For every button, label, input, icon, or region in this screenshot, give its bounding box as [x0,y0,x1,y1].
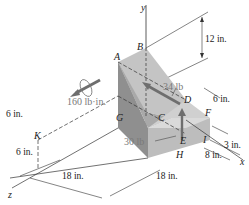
force-34-label: 34 lb [163,82,183,92]
dim-6in-DF: 6 in. [213,95,230,105]
point-D: D [184,95,191,105]
couple-label: 160 lb·in. [67,97,106,107]
point-E: E [180,136,186,146]
dim-6in-offset: 6 in. [16,148,33,158]
point-B: B [137,42,143,52]
dim-6in-K: 6 in. [6,110,23,120]
dim-12in: 12 in. [205,35,227,45]
statics-diagram: y x z A B C D E F G H I K 160 lb·in. 34 … [0,0,249,205]
dim-18in-right: 18 in. [156,172,178,182]
dim-3in: 3 in. [224,141,241,151]
point-A: A [114,52,120,62]
dim-8in: 8 in. [205,151,222,161]
x-axis-label: x [240,157,244,167]
y-axis-label: y [141,3,145,13]
point-C: C [158,113,165,123]
point-F: F [205,108,211,118]
point-K: K [34,131,41,141]
point-G: G [116,113,123,123]
dim-18in-left: 18 in. [62,172,84,182]
diagram-drawing [0,0,249,205]
point-H: H [176,150,183,160]
z-axis-label: z [8,190,12,200]
point-I: I [203,135,206,145]
force-30-label: 30 lb [124,137,144,147]
